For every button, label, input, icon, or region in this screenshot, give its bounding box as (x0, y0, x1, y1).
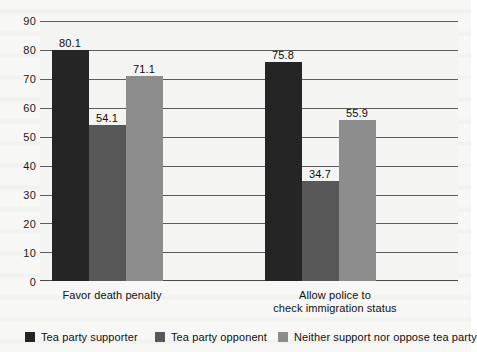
legend-swatch-neither (278, 332, 288, 342)
bar-g1-tea-party-opponent (89, 125, 126, 281)
gridline-90 (40, 21, 458, 22)
category-label-line-2: check immigration status (255, 302, 415, 315)
legend-item-tea-party-opponent[interactable]: Tea party opponent (155, 329, 267, 345)
plot-area: 80.1 54.1 71.1 75.8 34.7 55.9 (40, 21, 458, 281)
y-tick-70: 70 (4, 74, 36, 85)
y-tick-60: 60 (4, 103, 36, 114)
bar-g1-tea-party-supporter (52, 50, 89, 281)
y-tick-40: 40 (4, 161, 36, 172)
legend-label-tea-party-opponent: Tea party opponent (171, 332, 267, 343)
value-label-g1-opponent: 54.1 (77, 113, 137, 124)
y-tick-20: 20 (4, 219, 36, 230)
y-tick-90: 90 (4, 16, 36, 27)
value-label-g2-supporter: 75.8 (253, 50, 313, 61)
value-label-g1-neither: 71.1 (114, 64, 174, 75)
gridline-70 (40, 79, 458, 80)
bar-g1-neither (126, 76, 163, 281)
value-label-g1-supporter: 80.1 (40, 38, 100, 49)
y-tick-0: 0 (4, 277, 36, 288)
y-tick-80: 80 (4, 45, 36, 56)
gridline-60 (40, 108, 458, 109)
category-label-favor-death-penalty: Favor death penalty (47, 289, 177, 302)
legend-label-tea-party-supporter: Tea party supporter (41, 332, 138, 343)
y-tick-10: 10 (4, 248, 36, 259)
category-label-allow-police: Allow police to check immigration status (255, 289, 415, 315)
legend-swatch-tea-party-opponent (155, 332, 165, 342)
y-tick-50: 50 (4, 132, 36, 143)
y-tick-30: 30 (4, 190, 36, 201)
legend-label-neither: Neither support nor oppose tea party (294, 332, 477, 343)
value-label-g2-opponent: 34.7 (290, 169, 350, 180)
legend-swatch-tea-party-supporter (25, 332, 35, 342)
legend-item-neither[interactable]: Neither support nor oppose tea party (278, 329, 477, 345)
legend-item-tea-party-supporter[interactable]: Tea party supporter (25, 329, 138, 345)
gridline-80 (40, 50, 458, 51)
category-label-line-1: Allow police to (255, 289, 415, 302)
chart-legend: Tea party supporter Tea party opponent N… (0, 329, 471, 347)
y-axis-tick-labels: 90 80 70 60 50 40 30 20 10 0 (0, 21, 36, 281)
bar-g2-tea-party-opponent (302, 181, 339, 281)
bar-g2-neither (339, 120, 376, 281)
category-label-line: Favor death penalty (47, 289, 177, 302)
value-label-g2-neither: 55.9 (327, 108, 387, 119)
